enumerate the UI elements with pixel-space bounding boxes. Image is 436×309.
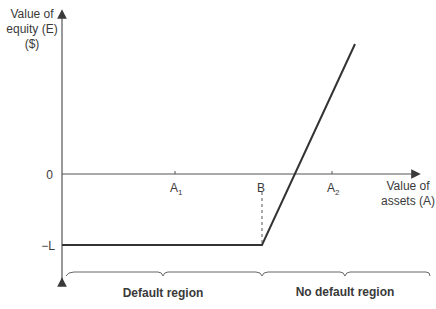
- equity-payoff-diagram: Value of equity (E) ($) 0 −L A1 B A2 Val…: [0, 0, 436, 309]
- x-tick-a2: A2: [327, 181, 340, 197]
- x-axis-label-2: assets (A): [381, 194, 435, 208]
- y-axis-label-3: ($): [25, 37, 40, 51]
- no-default-region-label: No default region: [296, 285, 395, 299]
- y-axis-label-1: Value of: [10, 7, 54, 21]
- default-region-label: Default region: [123, 286, 204, 300]
- y-axis-label-2: equity (E): [6, 22, 57, 36]
- y-tick-minus-l: −L: [41, 239, 55, 253]
- region-brace: [66, 272, 430, 276]
- x-tick-a1: A1: [170, 181, 183, 197]
- payoff-line: [62, 44, 355, 245]
- y-tick-zero: 0: [46, 168, 53, 182]
- x-tick-b: B: [257, 181, 265, 195]
- x-axis-label-1: Value of: [386, 179, 430, 193]
